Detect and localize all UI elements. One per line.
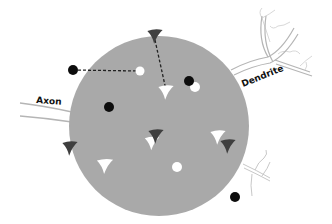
white-dot	[136, 67, 145, 76]
black-dot	[68, 65, 78, 75]
neuron-diagram: Axon Dendrite	[0, 0, 332, 224]
white-dot	[172, 162, 182, 172]
axon-process	[20, 103, 72, 122]
soma-circle	[69, 36, 249, 216]
black-dot	[104, 102, 114, 112]
axon-label: Axon	[36, 95, 62, 107]
dendrite-label: Dendrite	[240, 63, 285, 89]
lower-dendrite-branch	[243, 150, 270, 196]
black-dot	[230, 192, 240, 202]
black-dot	[184, 76, 194, 86]
dendrite-branches	[260, 8, 312, 70]
